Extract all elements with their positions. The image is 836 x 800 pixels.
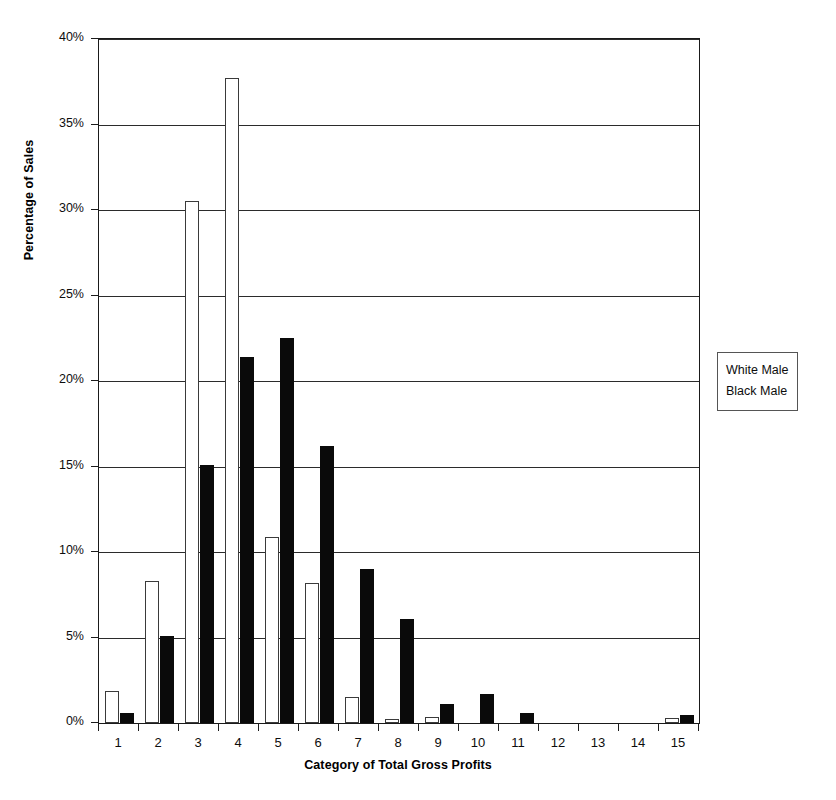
gridline xyxy=(99,125,699,126)
y-tick-label: 35% xyxy=(36,117,84,130)
x-tick-label-12: 12 xyxy=(538,736,578,749)
x-tick-label-5: 5 xyxy=(258,736,298,749)
y-tick-mark xyxy=(91,38,98,39)
bar-white-male-cat-15 xyxy=(665,718,679,723)
legend-item-white-male: White Male xyxy=(726,360,789,381)
bar-white-male-cat-9 xyxy=(425,717,439,723)
x-tick-mark xyxy=(498,724,499,731)
x-tick-label-14: 14 xyxy=(618,736,658,749)
bar-black-male-cat-11 xyxy=(520,713,534,723)
x-tick-label-3: 3 xyxy=(178,736,218,749)
bar-white-male-cat-6 xyxy=(305,583,319,723)
x-tick-mark xyxy=(578,724,579,731)
x-tick-label-1: 1 xyxy=(98,736,138,749)
x-tick-label-8: 8 xyxy=(378,736,418,749)
bar-black-male-cat-1 xyxy=(120,713,134,723)
x-tick-label-2: 2 xyxy=(138,736,178,749)
y-tick-label: 40% xyxy=(36,31,84,44)
x-tick-label-11: 11 xyxy=(498,736,538,749)
x-tick-mark xyxy=(418,724,419,731)
bar-white-male-cat-5 xyxy=(265,537,279,723)
bar-white-male-cat-4 xyxy=(225,78,239,723)
x-tick-mark xyxy=(178,724,179,731)
y-tick-mark xyxy=(91,466,98,467)
plot-area xyxy=(98,38,700,724)
y-tick-label: 30% xyxy=(36,202,84,215)
x-tick-label-13: 13 xyxy=(578,736,618,749)
bar-black-male-cat-15 xyxy=(680,715,694,723)
y-tick-label: 25% xyxy=(36,288,84,301)
legend: White Male Black Male xyxy=(717,352,798,411)
x-tick-label-4: 4 xyxy=(218,736,258,749)
y-tick-mark xyxy=(91,124,98,125)
x-tick-mark xyxy=(298,724,299,731)
y-tick-mark xyxy=(91,295,98,296)
bar-white-male-cat-8 xyxy=(385,719,399,723)
y-tick-label: 0% xyxy=(36,715,84,728)
bar-black-male-cat-8 xyxy=(400,619,414,723)
x-tick-label-10: 10 xyxy=(458,736,498,749)
x-tick-mark xyxy=(658,724,659,731)
y-tick-mark xyxy=(91,722,98,723)
y-tick-label: 20% xyxy=(36,373,84,386)
bar-white-male-cat-2 xyxy=(145,581,159,723)
bar-black-male-cat-2 xyxy=(160,636,174,723)
bar-black-male-cat-3 xyxy=(200,465,214,723)
bar-black-male-cat-5 xyxy=(280,338,294,723)
bar-black-male-cat-4 xyxy=(240,357,254,723)
y-tick-label: 10% xyxy=(36,544,84,557)
x-tick-mark xyxy=(698,724,699,731)
x-tick-mark xyxy=(618,724,619,731)
bar-white-male-cat-1 xyxy=(105,691,119,723)
x-tick-label-15: 15 xyxy=(658,736,698,749)
bar-white-male-cat-7 xyxy=(345,697,359,723)
y-tick-mark xyxy=(91,380,98,381)
bar-black-male-cat-9 xyxy=(440,704,454,723)
bar-chart: Percentage of Sales 0%5%10%15%20%25%30%3… xyxy=(0,0,836,800)
y-tick-mark xyxy=(91,209,98,210)
bar-black-male-cat-7 xyxy=(360,569,374,723)
y-tick-mark xyxy=(91,551,98,552)
bar-black-male-cat-10 xyxy=(480,694,494,723)
legend-item-black-male: Black Male xyxy=(726,381,789,402)
x-tick-mark xyxy=(218,724,219,731)
x-tick-mark xyxy=(258,724,259,731)
x-tick-mark xyxy=(458,724,459,731)
bar-white-male-cat-3 xyxy=(185,201,199,723)
y-tick-label: 15% xyxy=(36,459,84,472)
x-tick-label-6: 6 xyxy=(298,736,338,749)
gridline xyxy=(99,39,699,40)
y-tick-mark xyxy=(91,637,98,638)
x-tick-mark xyxy=(538,724,539,731)
x-tick-label-9: 9 xyxy=(418,736,458,749)
x-tick-mark xyxy=(378,724,379,731)
x-tick-mark xyxy=(138,724,139,731)
x-tick-mark xyxy=(98,724,99,731)
x-tick-mark xyxy=(338,724,339,731)
bar-black-male-cat-6 xyxy=(320,446,334,723)
y-tick-label: 5% xyxy=(36,630,84,643)
x-axis-title: Category of Total Gross Profits xyxy=(98,758,698,772)
x-tick-label-7: 7 xyxy=(338,736,378,749)
